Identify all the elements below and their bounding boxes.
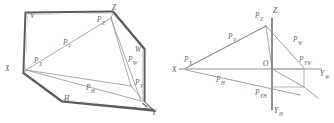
label-PH-right-sub: H <box>220 80 225 86</box>
trace-edge-pv-dup <box>186 26 266 68</box>
trace-edge-ph <box>186 70 300 95</box>
label-PYH-sub: YH <box>260 93 267 99</box>
trace-triangle <box>186 26 304 95</box>
label-PH-sub: H <box>90 88 95 94</box>
label-YH-sub: H <box>278 111 283 117</box>
label-X: X <box>4 64 10 73</box>
label-PH-right-group: P H <box>215 75 225 86</box>
projection-diagonal <box>272 69 304 87</box>
label-X-right: X <box>171 65 177 74</box>
label-W: W <box>135 45 142 54</box>
label-Z: Z <box>112 3 117 12</box>
label-PV-right-group: P V <box>227 32 237 43</box>
right-panel: Z X O Y W Y H P Z P <box>171 6 330 117</box>
label-PZ-right-sub: Z <box>260 16 263 22</box>
left-panel: V Z W X H Y P Z P V P X <box>4 3 157 117</box>
label-PW-right-sub: W <box>298 40 303 46</box>
label-PYW-group: P YW <box>298 55 312 66</box>
label-PYW-sub: YW <box>304 60 312 66</box>
label-PX-sub: X <box>38 61 43 67</box>
label-H: H <box>63 94 70 103</box>
trace-line-py-y <box>131 86 151 109</box>
label-PZ-sub: Z <box>102 20 105 26</box>
label-YH-group: Y H <box>274 106 283 117</box>
label-YW-sub: W <box>325 74 330 80</box>
label-O-origin: O <box>263 59 269 68</box>
label-PW-group: P W <box>127 55 138 66</box>
diagram-canvas: V Z W X H Y P Z P V P X <box>0 0 334 123</box>
label-Y: Y <box>152 108 157 117</box>
projection-diagonal-ext <box>304 87 318 98</box>
label-PH-group: P H <box>85 83 95 94</box>
label-PV-sub: V <box>68 43 72 49</box>
figure-root: V Z W X H Y P Z P V P X <box>0 0 334 123</box>
label-PV-right-sub: V <box>233 37 237 43</box>
label-PX-group: P X <box>33 56 43 67</box>
label-YW-group: Y W <box>320 69 330 80</box>
label-PYH-group: P YH <box>254 88 267 99</box>
label-PW-right-group: P W <box>292 35 303 46</box>
label-PX-right-group: P X <box>183 55 193 66</box>
label-PW-sub: W <box>133 60 138 66</box>
label-PZ-right-group: P Z <box>254 11 263 22</box>
label-Z-right: Z <box>273 6 278 15</box>
